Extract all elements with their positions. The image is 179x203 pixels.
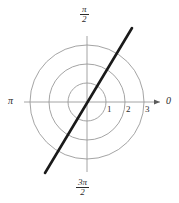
radial-tick-label-2: 2 [126, 105, 131, 114]
horizontal-axis [24, 99, 160, 104]
plotted-line-series [45, 28, 132, 173]
horizontal-axis-arrowhead [154, 99, 160, 104]
fraction-denominator: 2 [80, 15, 89, 24]
radial-tick-label-1: 1 [107, 105, 112, 114]
axis-label-theta-pi: π [8, 96, 13, 106]
axis-label-theta-half-pi: π 2 [80, 5, 89, 25]
axis-label-theta-zero: 0 [166, 96, 171, 106]
axis-label-theta-three-halves-pi: 3π 2 [76, 178, 89, 198]
fraction-three-halves-pi: 3π 2 [76, 178, 89, 198]
polar-grid-svg [0, 0, 179, 203]
polar-plot-figure: 0 π π 2 3π 2 1 2 3 [0, 0, 179, 203]
polar-line-through-origin [45, 28, 132, 173]
fraction-denominator: 2 [76, 188, 89, 197]
fraction-half-pi: π 2 [80, 5, 89, 25]
radial-tick-label-3: 3 [145, 105, 150, 114]
